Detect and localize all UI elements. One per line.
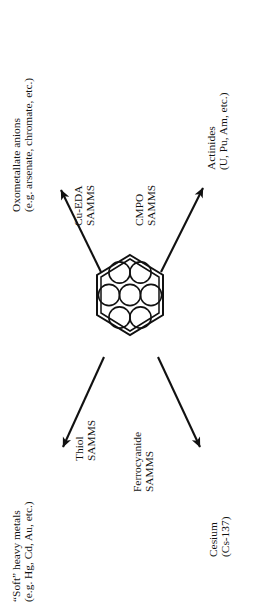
arrow-label-cu-eda-samms: Cu-EDA SAMMS <box>72 185 96 226</box>
target-line-1: “Soft” heavy metals <box>10 501 22 602</box>
target-label-soft-heavy-metals: “Soft” heavy metals (e.g. Hg, Cd, Au, et… <box>10 501 34 602</box>
material-line-2: SAMMS <box>145 185 157 226</box>
pore-group <box>98 262 161 328</box>
material-line-1: Thiol <box>73 420 85 461</box>
arrow-label-thiol-samms: Thiol SAMMS <box>73 420 97 461</box>
target-line-1: Cesium <box>207 517 219 558</box>
arrow-label-cmpo-samms: CMPO SAMMS <box>133 185 157 226</box>
target-line-2: (U, Pu, Am, etc.) <box>217 92 229 170</box>
hexagon-outer-outline <box>97 255 163 335</box>
material-line-1: CMPO <box>133 185 145 226</box>
arrow-cmpo <box>161 188 203 272</box>
target-line-2: (e.g. Hg, Cd, Au, etc.) <box>22 501 34 602</box>
pore-circle <box>119 284 140 305</box>
mesoporous-silica-hexagon <box>97 255 163 335</box>
target-line-2: (e.g. arsenate, chromate, etc.) <box>22 78 34 212</box>
target-line-1: Actinides <box>205 92 217 170</box>
material-line-1: Cu-EDA <box>72 185 84 226</box>
target-line-2: (Cs-137) <box>219 517 231 558</box>
figure-canvas: Oxometallate anions (e.g. arsenate, chro… <box>0 0 253 611</box>
material-line-2: SAMMS <box>85 420 97 461</box>
target-line-1: Oxometallate anions <box>10 78 22 212</box>
target-label-actinides: Actinides (U, Pu, Am, etc.) <box>205 92 229 170</box>
target-label-cesium: Cesium (Cs-137) <box>207 517 231 558</box>
target-label-oxometallate-anions: Oxometallate anions (e.g. arsenate, chro… <box>10 78 34 212</box>
material-line-2: SAMMS <box>84 185 96 226</box>
arrow-label-ferrocyanide-samms: Ferrocyanide SAMMS <box>131 432 155 492</box>
material-line-1: Ferrocyanide <box>131 432 143 492</box>
arrow-ferrocyanide <box>158 357 200 447</box>
material-line-2: SAMMS <box>143 432 155 492</box>
